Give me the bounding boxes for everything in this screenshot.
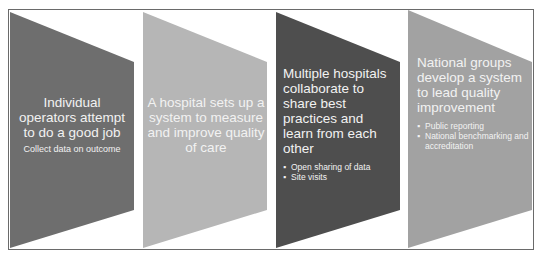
step-3-bullets: Open sharing of data Site visits <box>283 162 397 182</box>
step-3-bullet-1: Open sharing of data <box>283 162 397 172</box>
step-3-bullet-2: Site visits <box>283 172 397 182</box>
step-2-shape: A hospital sets up a system to measure a… <box>143 10 267 248</box>
step-3-title: Multiple hospitals collaborate to share … <box>283 66 397 156</box>
step-4-bullet-1: Public reporting <box>417 121 529 131</box>
step-4-shape: National groups develop a system to lead… <box>408 10 532 248</box>
step-4-bullet-2: National benchmarking and accreditation <box>417 131 529 151</box>
step-2-title: A hospital sets up a system to measure a… <box>147 95 265 155</box>
step-3-shape: Multiple hospitals collaborate to share … <box>276 10 400 248</box>
step-4-title: National groups develop a system to lead… <box>417 55 529 115</box>
step-1-shape: Individual operators attempt to do a goo… <box>10 10 134 248</box>
step-4-bullets: Public reporting National benchmarking a… <box>417 121 529 151</box>
step-1-title: Individual operators attempt to do a goo… <box>14 95 130 140</box>
step-1-subtext: Collect data on outcome <box>14 144 130 155</box>
